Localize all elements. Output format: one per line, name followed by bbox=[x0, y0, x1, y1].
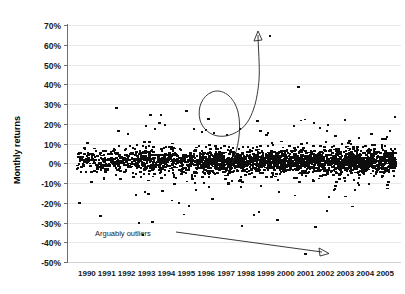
data-point bbox=[387, 154, 389, 156]
data-point bbox=[293, 150, 295, 152]
data-point bbox=[373, 175, 375, 177]
data-point bbox=[250, 164, 252, 166]
data-point bbox=[198, 145, 200, 147]
y-tick-label: 40% bbox=[44, 80, 61, 90]
data-point bbox=[350, 152, 352, 154]
data-point bbox=[370, 149, 372, 151]
data-point bbox=[389, 167, 391, 169]
data-point bbox=[258, 152, 260, 154]
x-tick-label: 1992 bbox=[118, 269, 136, 278]
data-point bbox=[301, 174, 303, 176]
data-point bbox=[381, 146, 383, 148]
data-point bbox=[250, 160, 252, 162]
data-point bbox=[279, 155, 281, 157]
data-point bbox=[365, 161, 367, 163]
data-point bbox=[379, 152, 381, 154]
data-point bbox=[308, 164, 310, 166]
data-point bbox=[255, 157, 257, 159]
data-point bbox=[330, 171, 332, 173]
data-point bbox=[119, 170, 121, 172]
data-point bbox=[124, 149, 126, 151]
y-tick-label: 60% bbox=[44, 41, 61, 51]
data-point bbox=[198, 159, 200, 161]
data-point bbox=[328, 150, 330, 152]
data-point bbox=[165, 154, 167, 156]
data-point bbox=[80, 171, 82, 173]
data-point bbox=[331, 146, 333, 148]
data-point bbox=[148, 145, 150, 147]
data-point bbox=[309, 161, 311, 163]
data-point bbox=[262, 172, 264, 174]
data-point bbox=[382, 149, 384, 151]
data-point bbox=[333, 149, 335, 151]
data-point bbox=[186, 181, 188, 183]
data-point bbox=[268, 153, 270, 155]
data-point bbox=[317, 159, 319, 161]
data-point bbox=[89, 163, 91, 165]
data-point bbox=[240, 176, 242, 178]
data-point bbox=[284, 170, 286, 172]
data-point bbox=[202, 156, 204, 158]
data-point bbox=[138, 222, 140, 224]
data-point bbox=[349, 156, 351, 158]
data-point bbox=[288, 155, 290, 157]
data-point bbox=[115, 174, 117, 176]
data-point bbox=[93, 170, 95, 172]
data-point bbox=[152, 151, 154, 153]
data-point bbox=[313, 156, 315, 158]
data-point bbox=[218, 156, 220, 158]
data-point bbox=[326, 210, 328, 212]
data-point bbox=[171, 200, 173, 202]
data-point bbox=[347, 142, 349, 144]
y-axis-title: Monthly returns bbox=[12, 116, 22, 184]
data-point bbox=[335, 148, 337, 150]
y-tick-label: -40% bbox=[41, 238, 61, 248]
data-point bbox=[194, 175, 196, 177]
data-point bbox=[224, 175, 226, 177]
data-point bbox=[334, 185, 336, 187]
data-point bbox=[352, 156, 354, 158]
data-point bbox=[91, 154, 93, 156]
data-point bbox=[356, 168, 358, 170]
data-point bbox=[208, 162, 210, 164]
data-point bbox=[206, 153, 208, 155]
data-point bbox=[335, 150, 337, 152]
data-point bbox=[127, 133, 129, 135]
data-point bbox=[108, 164, 110, 166]
data-point bbox=[376, 152, 378, 154]
x-ticks-group: 1990199119921993199419951996199719981999… bbox=[78, 269, 395, 278]
data-point bbox=[324, 160, 326, 162]
data-point bbox=[293, 147, 295, 149]
data-point bbox=[198, 161, 200, 163]
x-tick-label: 2001 bbox=[297, 269, 315, 278]
data-point bbox=[211, 198, 213, 200]
data-point bbox=[300, 154, 302, 156]
data-point bbox=[225, 167, 227, 169]
data-point bbox=[277, 165, 279, 167]
data-point bbox=[256, 120, 258, 122]
data-point bbox=[266, 155, 268, 157]
data-point bbox=[273, 162, 275, 164]
data-point bbox=[164, 163, 166, 165]
data-point bbox=[152, 176, 154, 178]
data-point bbox=[357, 182, 359, 184]
data-point bbox=[272, 160, 274, 162]
data-point bbox=[366, 158, 368, 160]
data-point bbox=[333, 169, 335, 171]
data-point bbox=[328, 167, 330, 169]
data-point bbox=[383, 156, 385, 158]
data-point bbox=[180, 169, 182, 171]
data-point bbox=[300, 160, 302, 162]
data-point bbox=[286, 160, 288, 162]
data-point bbox=[148, 141, 150, 143]
data-point bbox=[226, 158, 228, 160]
data-point bbox=[304, 119, 306, 121]
data-point bbox=[127, 156, 129, 158]
data-point bbox=[362, 167, 364, 169]
data-point bbox=[160, 114, 162, 116]
data-point bbox=[379, 171, 381, 173]
data-point bbox=[348, 165, 350, 167]
data-point bbox=[389, 154, 391, 156]
data-point bbox=[381, 138, 383, 140]
data-point bbox=[213, 160, 215, 162]
